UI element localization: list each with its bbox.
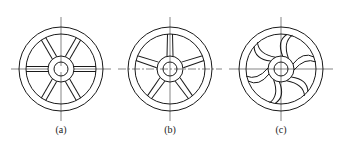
wheel-b [118,17,222,121]
label-c: (c) [266,124,296,135]
label-b: (b) [155,124,185,135]
label-a: (a) [46,124,76,135]
wheel-a [11,17,111,121]
wheel-c [229,17,333,121]
